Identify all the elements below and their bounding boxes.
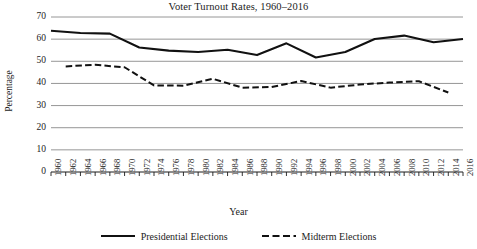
- x-tick-label: 2014: [452, 159, 461, 176]
- x-tick-label: 1964: [84, 159, 93, 176]
- x-tick-label: 1972: [143, 159, 152, 176]
- solid-line-icon: [101, 231, 135, 241]
- x-tick-label: 2000: [349, 159, 358, 176]
- x-tick-label: 1960: [54, 159, 63, 176]
- x-tick-label: 1994: [305, 159, 314, 176]
- x-tick-label: 2004: [378, 159, 387, 176]
- x-axis-label: Year: [0, 206, 477, 217]
- x-tick-label: 1980: [202, 159, 211, 176]
- x-tick-label: 1982: [216, 159, 225, 176]
- chart-figure: Voter Turnout Rates, 1960–2016 Percentag…: [0, 0, 477, 249]
- legend-label: Presidential Elections: [141, 231, 228, 242]
- x-tick-label: 1962: [69, 159, 78, 176]
- x-tick-label: 1990: [275, 159, 284, 176]
- dashed-line-icon: [262, 231, 296, 241]
- x-tick-label: 2012: [437, 159, 446, 176]
- x-tick-label: 1974: [157, 159, 166, 176]
- x-tick-label: 1968: [113, 159, 122, 176]
- chart-legend: Presidential ElectionsMidterm Elections: [0, 226, 477, 246]
- legend-entry[interactable]: Presidential Elections: [101, 231, 228, 242]
- x-tick-label: 1984: [231, 159, 240, 176]
- x-tick-label: 1976: [172, 159, 181, 176]
- x-tick-label: 1992: [290, 159, 299, 176]
- x-tick-label: 1988: [260, 159, 269, 176]
- x-tick-label: 1996: [319, 159, 328, 176]
- x-tick-label: 2016: [466, 159, 475, 176]
- x-tick-label: 1998: [334, 159, 343, 176]
- x-tick-label: 1966: [99, 159, 108, 176]
- x-tick-label: 1986: [246, 159, 255, 176]
- x-tick-label: 2008: [408, 159, 417, 176]
- x-tick-label: 2010: [422, 159, 431, 176]
- x-tick-label: 1970: [128, 159, 137, 176]
- legend-label: Midterm Elections: [302, 231, 377, 242]
- x-tick-label: 2002: [363, 159, 372, 176]
- x-tick-label: 2006: [393, 159, 402, 176]
- x-tick-label: 1978: [187, 159, 196, 176]
- legend-entry[interactable]: Midterm Elections: [262, 231, 377, 242]
